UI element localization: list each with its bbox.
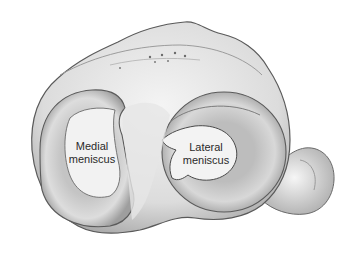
tibial-plateau-illustration [0,0,353,258]
lateral-label-line1: Lateral [176,141,236,154]
lateral-label-line2: meniscus [176,154,236,167]
medial-label-line2: meniscus [62,153,122,166]
medial-meniscus-label: Medial meniscus [62,140,122,166]
lateral-meniscus-label: Lateral meniscus [176,141,236,167]
medial-label-line1: Medial [62,140,122,153]
